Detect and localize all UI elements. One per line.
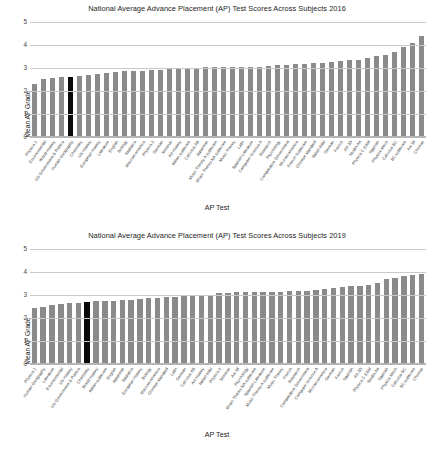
bar-slot <box>180 249 189 364</box>
bar <box>86 75 92 137</box>
bar-slot <box>364 249 373 364</box>
bar-slot <box>399 249 408 364</box>
bar-slot <box>354 22 363 137</box>
bar <box>203 67 209 137</box>
bar <box>356 60 362 137</box>
bar <box>199 296 204 364</box>
bar-slot <box>75 22 84 137</box>
bar <box>401 276 406 364</box>
bar-slot <box>39 249 48 364</box>
bar <box>176 68 182 137</box>
bar <box>243 292 248 364</box>
bar-slot <box>120 22 129 137</box>
bar <box>239 67 245 137</box>
bar-slot <box>382 249 391 364</box>
bar-slot <box>237 22 246 137</box>
bar <box>284 65 290 137</box>
bar-slot <box>102 22 111 137</box>
gridline <box>30 341 426 342</box>
bar <box>347 60 353 137</box>
bar-slot <box>228 22 237 137</box>
bar-slot <box>206 249 215 364</box>
bar-slot <box>336 22 345 137</box>
bar-slot <box>338 249 347 364</box>
bar <box>392 52 398 137</box>
bar-slot <box>83 249 92 364</box>
bar <box>40 307 45 364</box>
bar <box>212 67 218 137</box>
bar-slot <box>84 22 93 137</box>
bar-slot <box>224 249 233 364</box>
bar <box>287 291 292 364</box>
bar-slot <box>363 22 372 137</box>
bar-slot <box>138 22 147 137</box>
bar <box>146 298 151 364</box>
bar-slot <box>147 22 156 137</box>
bar-highlighted <box>68 77 74 137</box>
y-axis-tick-label: 2 <box>23 315 27 321</box>
bar <box>313 290 318 364</box>
bar-slot <box>381 22 390 137</box>
gridline <box>30 91 426 92</box>
bar-slot <box>408 22 417 137</box>
bar-slot <box>30 249 39 364</box>
bar <box>149 70 155 137</box>
y-axis-tick-label: 5 <box>23 246 27 252</box>
bar-slot <box>65 249 74 364</box>
bar-slot <box>192 22 201 137</box>
bar-slot <box>250 249 259 364</box>
bar <box>340 287 345 364</box>
bar <box>278 292 283 364</box>
bar-slot <box>153 249 162 364</box>
bar-slot <box>241 249 250 364</box>
bar-slot <box>74 249 83 364</box>
bar <box>257 67 263 137</box>
bar-slot <box>127 249 136 364</box>
bar <box>225 293 230 364</box>
bar-slot <box>399 22 408 137</box>
bar <box>234 292 239 364</box>
bar-slot <box>318 22 327 137</box>
bar-slot <box>372 22 381 137</box>
y-axis-tick-label: 1 <box>23 111 27 117</box>
bar <box>275 65 281 137</box>
x-axis-label-2016: AP Test <box>0 203 434 212</box>
bar-slot <box>92 249 101 364</box>
ap-score-charts-page: National Average Advance Placement (AP) … <box>0 0 434 454</box>
bar <box>58 304 63 364</box>
plot-area-2016: 012345 <box>30 22 426 137</box>
bar <box>49 305 54 364</box>
bar-slot <box>144 249 153 364</box>
bar-slot <box>303 249 312 364</box>
bar <box>304 291 309 364</box>
gridline <box>30 364 426 365</box>
bar-slot <box>320 249 329 364</box>
bar <box>329 62 335 137</box>
bar <box>111 301 116 364</box>
bar-slot <box>174 22 183 137</box>
bar-slot <box>390 22 399 137</box>
bar-slot <box>373 249 382 364</box>
bar <box>95 74 101 137</box>
bar <box>120 300 125 364</box>
gridline <box>30 318 426 319</box>
bar-slot <box>129 22 138 137</box>
bar <box>131 71 137 137</box>
bar-slot <box>264 22 273 137</box>
gridline <box>30 68 426 69</box>
bar-slot <box>39 22 48 137</box>
bar-slot <box>219 22 228 137</box>
y-axis-tick-label: 4 <box>23 42 27 48</box>
bar-slot <box>183 22 192 137</box>
bar-slot <box>329 249 338 364</box>
gridline <box>30 22 426 23</box>
bar <box>322 289 327 364</box>
bar-slot <box>285 249 294 364</box>
bar <box>158 70 164 137</box>
y-axis-tick-label: 0 <box>23 134 27 140</box>
y-axis-tick-label: 3 <box>23 65 27 71</box>
bar <box>59 77 65 137</box>
bar-slot <box>165 22 174 137</box>
chart-2019: National Average Advance Placement (AP) … <box>0 227 434 454</box>
bar-slot <box>171 249 180 364</box>
